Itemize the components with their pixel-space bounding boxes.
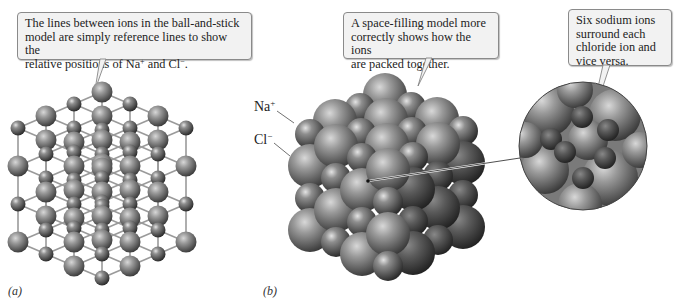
sodium-sphere [39, 223, 54, 238]
sodium-sphere [67, 97, 82, 112]
chloride-sphere [507, 122, 543, 158]
sodium-sphere [151, 247, 166, 262]
sodium-sphere [39, 247, 54, 262]
chloride-sphere [8, 232, 29, 253]
sodium-sphere [39, 147, 54, 162]
sodium-sphere [572, 167, 594, 189]
chloride-sphere [36, 106, 57, 127]
sodium-sphere [151, 223, 166, 238]
callout-pointer-b [418, 58, 432, 86]
magnified-coordination-view [507, 72, 658, 227]
space-filling-model [288, 73, 485, 281]
chloride-sphere [64, 232, 85, 253]
sodium-sphere [179, 197, 194, 212]
sodium-sphere [11, 197, 26, 212]
chloride-sphere [64, 256, 85, 277]
chloride-sphere [176, 156, 197, 177]
sodium-sphere [373, 251, 403, 281]
chloride-sphere [176, 232, 197, 253]
chloride-sphere [557, 72, 593, 108]
chloride-sphere [622, 132, 658, 168]
sodium-sphere [123, 97, 138, 112]
chloride-sphere [148, 182, 169, 203]
chloride-leader-line [274, 143, 290, 156]
chloride-sphere [366, 212, 410, 256]
ball-and-stick-model [8, 82, 197, 286]
chloride-sphere [120, 256, 141, 277]
sodium-sphere [151, 147, 166, 162]
chloride-sphere [36, 182, 57, 203]
sodium-sphere [95, 247, 110, 262]
chloride-sphere [8, 156, 29, 177]
chloride-sphere [92, 82, 113, 103]
sodium-sphere [597, 119, 619, 141]
sodium-sphere [594, 147, 616, 169]
sodium-leader-line [277, 111, 294, 123]
sodium-sphere [554, 141, 576, 163]
chloride-sphere [120, 232, 141, 253]
sodium-sphere [95, 271, 110, 286]
sodium-sphere [571, 106, 593, 128]
figure-graphics [0, 0, 676, 304]
sodium-sphere [11, 121, 26, 136]
chloride-sphere [558, 183, 602, 227]
sodium-sphere [179, 121, 194, 136]
chloride-sphere [148, 106, 169, 127]
magnify-anchor-dot [366, 179, 370, 183]
chloride-sphere [366, 148, 410, 192]
